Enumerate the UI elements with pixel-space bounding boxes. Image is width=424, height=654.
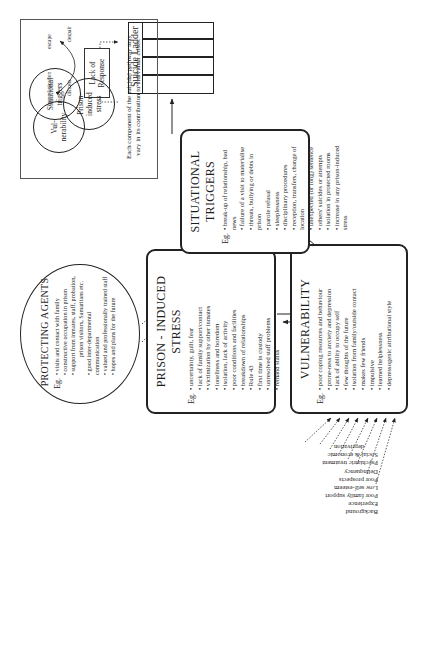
diagram-stage: Background Experience Poor family suppor… [0, 0, 424, 654]
circle-label: Prison- [76, 92, 85, 116]
list-item: threats, bullying or debts in prison [247, 139, 264, 230]
list-item: hopes and plans for the future [109, 275, 117, 375]
list-item: lack of ability to occupy self [333, 289, 342, 391]
list-item: makes few friends [359, 289, 368, 391]
list-item: break-up of relationship, bad news [221, 139, 238, 230]
list-item: breakdown of relationships [239, 306, 248, 390]
list-item: depressogenic attributional style [385, 289, 394, 391]
protecting-agents-items: visits and contact with family construct… [53, 275, 117, 375]
situational-triggers-title: SITUATIONAL TRIGGERS [188, 139, 218, 244]
list-item: lack of family support/contact [196, 306, 205, 390]
prison-induced-stress-box: PRISON - INDUCED STRESS Eg. uncertainty,… [146, 249, 276, 414]
list-item: poor conditions and facilities [230, 306, 239, 390]
factor-item: Delinquency [278, 467, 378, 475]
eg-label: Eg. [53, 378, 117, 389]
factor-item: Poor prospects [278, 476, 378, 484]
list-item-continued: prison visitors, Samaritans etc. [77, 275, 85, 375]
legend-box: Vul-nerability Situationaltriggers Priso… [20, 19, 158, 179]
list-item: unresolved staff problems [264, 306, 273, 390]
eg-label: Eg. [187, 393, 282, 404]
list-item: first time in custody [256, 306, 265, 390]
protecting-agents-title: PROTECTING AGENTS [39, 275, 50, 389]
factor-item: Background [278, 508, 378, 516]
list-item: uncertainty, guilt, fear [187, 306, 196, 390]
factor-item: Poor family support [278, 492, 378, 500]
list-item: valued and professionally trained staff [101, 275, 109, 375]
vulnerability-items: poor coping resources and behaviour pron… [316, 289, 393, 391]
list-item: support from inmates, staff, probation, [69, 275, 77, 375]
list-item: reception, transfers, change of location [290, 139, 307, 230]
background-factors-list: Background Experience Poor family suppor… [278, 443, 378, 516]
list-item: isolation in protected rooms [324, 139, 333, 230]
situational-triggers-box: SITUATIONAL TRIGGERS Eg. break-up of rel… [180, 129, 310, 254]
prison-stress-title: PRISON - INDUCED STRESS [154, 259, 184, 404]
factor-item: Psychiatric treatment [278, 459, 378, 467]
list-item: prone-ness to anxiety and depression [325, 289, 334, 391]
list-item: visits and contact with family [53, 275, 61, 375]
list-item: unexpected (or long) sentence [307, 139, 316, 230]
list-item: isolation, lack of activity [221, 306, 230, 390]
list-item: remand status [273, 306, 282, 390]
prison-stress-items: uncertainty, guilt, fear lack of family … [187, 306, 282, 390]
caption-line: Each component of the suicidal pathway m… [125, 24, 134, 170]
list-item: others' suicides or attempts [316, 139, 325, 230]
factor-item: Social & economic [278, 451, 378, 459]
list-item: constructive occupation in prison [61, 275, 69, 375]
list-item: poor coping resources and behaviour [316, 289, 325, 391]
protecting-agents-ellipse: PROTECTING AGENTS Eg. visits and contact… [20, 264, 140, 404]
list-item: few thoughts of the future [342, 289, 351, 391]
vulnerability-title: VULNERABILITY [298, 254, 313, 404]
list-item: victimization by other inmates [204, 306, 213, 390]
list-item: loneliness and boredom [213, 306, 222, 390]
eg-label: Eg. [221, 233, 350, 244]
list-item: increase in any prison-induced stress [333, 139, 350, 230]
list-item: isolation from family/outside contact [350, 289, 359, 391]
list-item: failure of a visit to materialise [238, 139, 247, 230]
circle-label: induced [85, 92, 94, 116]
list-item: disciplinary procedures [281, 139, 290, 230]
factor-item: Experience [278, 500, 378, 508]
circle-prison-induced-stress: Prison-inducedstress [63, 78, 115, 130]
circle-label: Situational [46, 78, 55, 111]
list-item: impulsive [368, 289, 377, 391]
factor-item: deprivation [278, 443, 378, 451]
list-item: sleeplessness [273, 139, 282, 230]
legend-caption: Each component of the suicidal pathway m… [125, 24, 142, 170]
factor-item: Low self-esteem [278, 484, 378, 492]
circle-label: stress [94, 92, 103, 116]
list-item: Rule 43 [247, 306, 256, 390]
situational-triggers-items: break-up of relationship, bad news failu… [221, 139, 350, 230]
eg-label: Eg. [316, 393, 393, 404]
list-item: good inter-departmental communication [85, 275, 101, 375]
caption-line: vary in its contribution to individual c… [134, 24, 143, 170]
list-item: learned helplessness [376, 289, 385, 391]
list-item: parole refusal [264, 139, 273, 230]
vulnerability-box: VULNERABILITY Eg. poor coping resources … [290, 244, 408, 414]
